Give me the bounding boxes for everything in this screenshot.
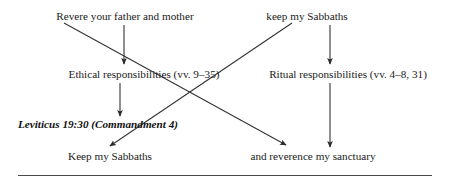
node-bottom-right: and reverence my sanctuary	[250, 150, 375, 162]
bottom-divider	[18, 175, 432, 176]
node-middle-left: Ethical responsibilities (vv. 9–35)	[69, 68, 220, 80]
caption-reference: Leviticus 19:30 (Commandment 4)	[18, 118, 178, 130]
node-middle-right: Ritual responsibilities (vv. 4–8, 31)	[269, 68, 427, 80]
diagram-figure: Revere your father and mother keep my Sa…	[0, 0, 450, 183]
node-top-right: keep my Sabbaths	[266, 10, 347, 22]
node-top-left: Revere your father and mother	[56, 10, 193, 22]
node-bottom-left: Keep my Sabbaths	[68, 150, 152, 162]
